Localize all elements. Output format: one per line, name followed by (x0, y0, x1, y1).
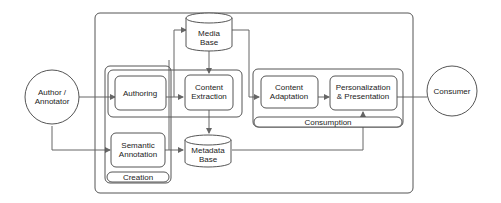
svg-text:Consumer: Consumer (434, 87, 471, 96)
node-semantic-annotation: Semantic Annotation (111, 133, 165, 167)
node-consumer: Consumer (427, 66, 477, 116)
svg-text:Personalization: Personalization (336, 83, 391, 92)
edge-authoring-media (174, 30, 186, 97)
svg-text:Base: Base (200, 38, 219, 47)
svg-text:Content: Content (195, 83, 224, 92)
svg-text:Metadata: Metadata (191, 146, 225, 155)
svg-text:Author /: Author / (38, 88, 67, 97)
node-personalization-presentation: Personalization & Presentation (330, 76, 397, 110)
edge-media-adaptation (232, 30, 259, 97)
creation-label: Creation (123, 173, 153, 182)
system-diagram: Creation Consumption Author / Annotator … (0, 0, 501, 203)
svg-text:& Presentation: & Presentation (337, 92, 389, 101)
svg-text:Authoring: Authoring (123, 89, 157, 98)
svg-text:Extraction: Extraction (191, 92, 227, 101)
svg-text:Annotation: Annotation (119, 150, 157, 159)
node-content-adaptation: Content Adaptation (261, 76, 318, 108)
node-content-extraction: Content Extraction (185, 75, 233, 110)
edge-author-annotation (52, 126, 110, 150)
node-media-base: Media Base (186, 13, 232, 51)
svg-text:Annotator: Annotator (35, 97, 70, 106)
svg-text:Content: Content (275, 83, 304, 92)
node-metadata-base: Metadata Base (185, 135, 231, 167)
node-author-annotator: Author / Annotator (25, 70, 79, 124)
svg-text:Base: Base (199, 155, 218, 164)
svg-text:Media: Media (198, 29, 220, 38)
consumption-label: Consumption (304, 118, 351, 127)
node-authoring: Authoring (115, 76, 166, 110)
svg-text:Semantic: Semantic (121, 141, 154, 150)
svg-text:Adaptation: Adaptation (270, 92, 308, 101)
